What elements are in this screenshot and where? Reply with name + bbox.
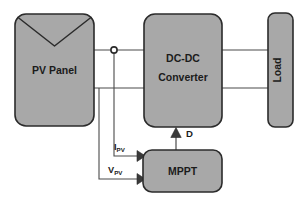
block-diagram: PV Panel DC-DC Converter Load MPPT IPV bbox=[0, 0, 308, 202]
junction-node-icon bbox=[111, 47, 117, 53]
block-mppt[interactable]: MPPT bbox=[143, 150, 222, 192]
mppt-label: MPPT bbox=[168, 165, 198, 177]
svg-text:IPV: IPV bbox=[114, 142, 126, 153]
block-load[interactable]: Load bbox=[268, 13, 293, 127]
block-pv-panel[interactable]: PV Panel bbox=[15, 14, 94, 126]
wire-current-sense bbox=[114, 54, 137, 156]
diagram-canvas: PV Panel DC-DC Converter Load MPPT IPV bbox=[0, 0, 308, 202]
voltage-subscript: PV bbox=[114, 169, 123, 176]
current-subscript: PV bbox=[117, 146, 126, 153]
dcdc-converter-label-line1: DC-DC bbox=[166, 52, 200, 64]
pv-panel-label: PV Panel bbox=[32, 64, 77, 76]
signal-label-current: IPV bbox=[114, 142, 126, 153]
arrowhead-duty-cycle bbox=[171, 128, 181, 138]
svg-text:VPV: VPV bbox=[108, 165, 123, 176]
wire-voltage-sense bbox=[99, 88, 137, 179]
dcdc-converter-label-line2: Converter bbox=[158, 71, 208, 83]
signal-label-voltage: VPV bbox=[108, 165, 123, 176]
block-dcdc-converter[interactable]: DC-DC Converter bbox=[144, 14, 222, 127]
signal-label-duty: D bbox=[186, 128, 193, 139]
load-label: Load bbox=[271, 57, 283, 82]
